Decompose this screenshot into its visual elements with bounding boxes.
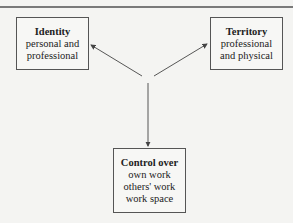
control-line-2: others' work (124, 181, 176, 193)
control-line-1: own work (128, 169, 170, 181)
control-box: Control over own work others' work work … (113, 148, 186, 213)
identity-line-1: personal and (26, 38, 79, 50)
control-line-3: work space (126, 193, 174, 205)
territory-line-2: and physical (220, 50, 273, 62)
control-title: Control over (121, 157, 178, 169)
territory-title: Territory (226, 26, 268, 38)
identity-line-2: professional (27, 50, 78, 62)
arrow-to-identity (91, 45, 142, 76)
identity-title: Identity (35, 26, 71, 38)
territory-box: Territory professional and physical (210, 17, 283, 70)
arrow-to-territory (154, 44, 207, 76)
identity-box: Identity personal and professional (16, 17, 89, 70)
territory-line-1: professional (221, 38, 272, 50)
